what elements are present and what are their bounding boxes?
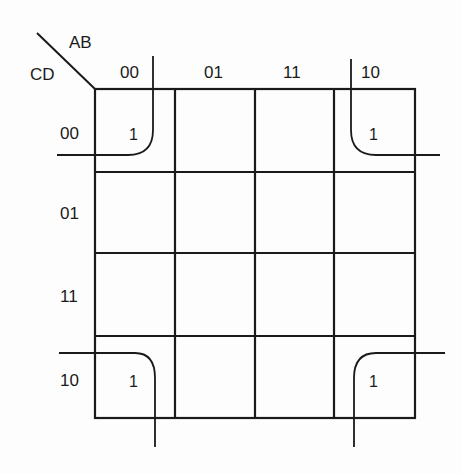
- loop-bottom-right: [354, 353, 445, 447]
- row-header-00: 00: [60, 124, 79, 143]
- row-header-11: 11: [60, 287, 78, 306]
- cell-r0-c3: 1: [369, 126, 378, 143]
- cell-r3-c0: 1: [129, 373, 138, 390]
- cell-r3-c3: 1: [369, 373, 378, 390]
- karnaugh-map: AB CD 00 01 11 10 00 01 11 10 1 1 1 1: [0, 0, 462, 474]
- col-header-00: 00: [120, 63, 139, 82]
- col-header-11: 11: [283, 63, 301, 82]
- row-header-01: 01: [60, 204, 79, 223]
- col-header-01: 01: [204, 63, 223, 82]
- col-variable-label: AB: [69, 33, 92, 52]
- loop-bottom-left: [59, 353, 155, 447]
- row-header-10: 10: [60, 371, 79, 390]
- map-grid: [95, 89, 415, 418]
- corner-group-loops: [57, 56, 445, 447]
- col-header-10: 10: [361, 63, 380, 82]
- row-variable-label: CD: [30, 65, 55, 84]
- cell-r0-c0: 1: [129, 126, 138, 143]
